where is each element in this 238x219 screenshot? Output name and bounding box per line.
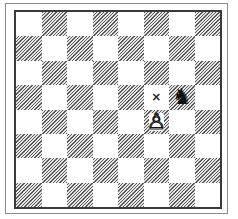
square-f6[interactable] (144, 61, 170, 85)
square-c5[interactable] (67, 85, 93, 109)
square-g4[interactable] (169, 110, 195, 134)
square-a4[interactable] (16, 110, 42, 134)
square-c6[interactable] (67, 61, 93, 85)
square-d7[interactable] (93, 36, 119, 60)
square-d5[interactable] (93, 85, 119, 109)
square-d1[interactable] (93, 183, 119, 207)
square-b7[interactable] (42, 36, 68, 60)
square-d2[interactable] (93, 158, 119, 182)
chess-board: ×♞♙ (14, 10, 222, 209)
square-b3[interactable] (42, 134, 68, 158)
square-d6[interactable] (93, 61, 119, 85)
square-b1[interactable] (42, 183, 68, 207)
square-g6[interactable] (169, 61, 195, 85)
square-c1[interactable] (67, 183, 93, 207)
square-g1[interactable] (169, 183, 195, 207)
square-f1[interactable] (144, 183, 170, 207)
square-a7[interactable] (16, 36, 42, 60)
square-b4[interactable] (42, 110, 68, 134)
square-e5[interactable] (118, 85, 144, 109)
square-e8[interactable] (118, 12, 144, 36)
square-f3[interactable] (144, 134, 170, 158)
square-g3[interactable] (169, 134, 195, 158)
square-b2[interactable] (42, 158, 68, 182)
square-a3[interactable] (16, 134, 42, 158)
square-c2[interactable] (67, 158, 93, 182)
square-c7[interactable] (67, 36, 93, 60)
square-a2[interactable] (16, 158, 42, 182)
square-h3[interactable] (195, 134, 221, 158)
square-e6[interactable] (118, 61, 144, 85)
square-h8[interactable] (195, 12, 221, 36)
square-g7[interactable] (169, 36, 195, 60)
white-pawn-icon[interactable]: ♙ (146, 111, 166, 133)
square-h2[interactable] (195, 158, 221, 182)
square-b6[interactable] (42, 61, 68, 85)
square-d4[interactable] (93, 110, 119, 134)
square-e3[interactable] (118, 134, 144, 158)
square-e2[interactable] (118, 158, 144, 182)
square-g5[interactable]: ♞ (169, 85, 195, 109)
square-h7[interactable] (195, 36, 221, 60)
square-h5[interactable] (195, 85, 221, 109)
square-c8[interactable] (67, 12, 93, 36)
square-h4[interactable] (195, 110, 221, 134)
square-a1[interactable] (16, 183, 42, 207)
cross-marker-icon: × (151, 91, 161, 103)
square-d8[interactable] (93, 12, 119, 36)
square-a5[interactable] (16, 85, 42, 109)
square-f2[interactable] (144, 158, 170, 182)
square-a8[interactable] (16, 12, 42, 36)
square-a6[interactable] (16, 61, 42, 85)
square-c4[interactable] (67, 110, 93, 134)
square-e7[interactable] (118, 36, 144, 60)
square-f5[interactable]: × (144, 85, 170, 109)
square-f8[interactable] (144, 12, 170, 36)
square-d3[interactable] (93, 134, 119, 158)
black-knight-icon[interactable]: ♞ (172, 86, 192, 108)
square-g8[interactable] (169, 12, 195, 36)
square-f4[interactable]: ♙ (144, 110, 170, 134)
square-b8[interactable] (42, 12, 68, 36)
square-h6[interactable] (195, 61, 221, 85)
square-h1[interactable] (195, 183, 221, 207)
square-g2[interactable] (169, 158, 195, 182)
square-b5[interactable] (42, 85, 68, 109)
square-f7[interactable] (144, 36, 170, 60)
square-e1[interactable] (118, 183, 144, 207)
square-c3[interactable] (67, 134, 93, 158)
square-e4[interactable] (118, 110, 144, 134)
